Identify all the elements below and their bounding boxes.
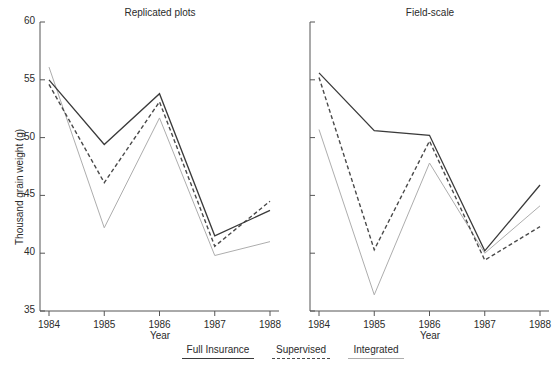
x-axis-tick-label-1988: 1988 <box>518 319 557 330</box>
x-axis-title-right: Year <box>380 330 480 341</box>
x-axis-tick-label-1984: 1984 <box>297 319 341 330</box>
y-axis-tick-label-50: 50 <box>7 131 35 142</box>
y-axis-tick-label-35: 35 <box>7 304 35 315</box>
series-line-supervised <box>319 77 540 260</box>
plot-area-field-scale <box>0 0 557 367</box>
legend-label-supervised: Supervised <box>276 344 326 355</box>
legend-item-supervised: Supervised <box>272 344 330 361</box>
legend-swatch-integrated <box>348 358 404 361</box>
x-axis-tick-label-1985: 1985 <box>352 319 396 330</box>
figure-root: Thousand grain weight (g) Replicated plo… <box>0 0 557 367</box>
x-axis-tick-label-1987: 1987 <box>193 319 237 330</box>
y-axis-tick-label-55: 55 <box>7 73 35 84</box>
y-axis-tick-label-40: 40 <box>7 246 35 257</box>
x-axis-tick-label-1984: 1984 <box>27 319 71 330</box>
legend-item-full-insurance: Full Insurance <box>182 344 254 361</box>
legend-swatch-full-insurance <box>182 358 254 361</box>
series-line-integrated <box>319 130 540 295</box>
y-axis-tick-label-60: 60 <box>7 15 35 26</box>
x-axis-tick-label-1986: 1986 <box>138 319 182 330</box>
legend-swatch-supervised <box>272 358 330 361</box>
legend-label-integrated: Integrated <box>353 344 398 355</box>
legend-label-full-insurance: Full Insurance <box>187 344 250 355</box>
legend: Full Insurance Supervised Integrated <box>182 344 404 361</box>
y-axis-tick-label-45: 45 <box>7 188 35 199</box>
x-axis-tick-label-1985: 1985 <box>82 319 126 330</box>
legend-item-integrated: Integrated <box>348 344 404 361</box>
series-line-full-insurance <box>319 73 540 251</box>
x-axis-tick-label-1987: 1987 <box>463 319 507 330</box>
x-axis-tick-label-1986: 1986 <box>408 319 452 330</box>
x-axis-tick-label-1988: 1988 <box>248 319 292 330</box>
